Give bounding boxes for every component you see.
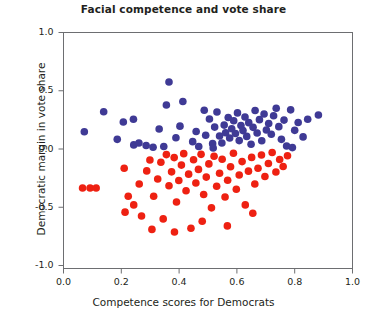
data-point xyxy=(195,143,203,151)
data-point xyxy=(216,169,224,177)
x-tick-label: 0.6 xyxy=(220,276,254,287)
data-point xyxy=(278,136,286,144)
data-point xyxy=(159,215,167,223)
data-point xyxy=(230,117,238,125)
data-point xyxy=(163,101,171,109)
data-point xyxy=(185,170,193,178)
data-point xyxy=(113,136,121,144)
axes-frame xyxy=(64,33,353,269)
data-point xyxy=(150,192,158,200)
data-point xyxy=(146,156,154,164)
data-point xyxy=(149,143,157,151)
data-point xyxy=(121,208,129,216)
data-point xyxy=(258,151,266,159)
x-tick-label: 0.4 xyxy=(162,276,196,287)
data-point xyxy=(135,180,143,188)
data-point xyxy=(233,185,241,193)
data-point xyxy=(154,175,162,183)
data-point xyxy=(182,187,190,195)
data-point xyxy=(245,167,253,175)
data-point xyxy=(211,123,219,131)
data-point xyxy=(258,137,266,145)
data-point xyxy=(279,163,287,171)
data-point xyxy=(299,133,307,141)
data-point xyxy=(243,133,251,141)
data-point xyxy=(276,156,284,164)
data-point xyxy=(284,152,292,160)
series-democratic-wins xyxy=(81,78,323,152)
data-point xyxy=(155,125,163,133)
data-point xyxy=(220,121,228,129)
data-point xyxy=(218,139,226,147)
data-point xyxy=(248,154,256,162)
data-point xyxy=(289,144,297,152)
data-point xyxy=(124,192,132,200)
data-point xyxy=(120,164,128,172)
chart-figure: Facial competence and vote share 1.00.50… xyxy=(0,0,367,321)
data-point xyxy=(79,184,87,192)
x-tick-label: 1.0 xyxy=(336,276,367,287)
data-point xyxy=(294,119,302,127)
data-point xyxy=(138,212,146,220)
data-point xyxy=(235,171,243,179)
data-point xyxy=(163,151,171,159)
data-point xyxy=(148,226,156,234)
data-point xyxy=(175,177,183,185)
data-point xyxy=(209,144,217,152)
data-point xyxy=(268,149,276,157)
data-point xyxy=(205,160,213,168)
data-point xyxy=(230,149,238,157)
data-point xyxy=(241,201,249,209)
data-point xyxy=(130,115,138,123)
data-point xyxy=(200,191,208,199)
data-point xyxy=(210,152,218,160)
data-point xyxy=(195,166,203,174)
data-point xyxy=(291,127,299,135)
data-point xyxy=(168,168,176,176)
data-point xyxy=(235,137,243,145)
data-point xyxy=(251,180,259,188)
data-point xyxy=(267,131,275,139)
data-point xyxy=(260,110,268,118)
data-point xyxy=(213,108,221,116)
data-point xyxy=(270,112,278,120)
plot-frame xyxy=(64,33,353,269)
data-point xyxy=(287,106,295,114)
data-point xyxy=(251,107,259,115)
data-point xyxy=(173,198,181,206)
data-point xyxy=(275,123,283,131)
data-point xyxy=(81,128,89,136)
x-tick-label: 0.8 xyxy=(278,276,312,287)
data-point xyxy=(187,224,195,232)
data-point xyxy=(315,111,323,119)
data-point xyxy=(160,143,168,151)
x-tick-label: 0.0 xyxy=(47,276,81,287)
y-axis-label: Democratic margin in vote share xyxy=(35,24,47,274)
data-point xyxy=(265,160,273,168)
scatter-plot-canvas xyxy=(0,0,367,321)
data-point xyxy=(192,179,200,187)
data-point xyxy=(206,115,214,123)
data-point xyxy=(208,204,216,212)
data-point xyxy=(178,161,186,169)
data-point xyxy=(265,120,273,128)
data-point xyxy=(272,104,280,112)
data-point xyxy=(172,134,180,142)
data-point xyxy=(130,201,138,209)
data-point xyxy=(213,182,221,190)
data-point xyxy=(100,108,108,116)
data-point xyxy=(176,122,184,130)
data-point xyxy=(179,98,187,106)
data-point xyxy=(180,150,188,158)
data-point xyxy=(142,142,150,150)
data-point xyxy=(171,228,179,236)
data-point xyxy=(189,138,197,146)
data-point xyxy=(304,115,312,123)
data-point xyxy=(272,168,280,176)
data-point xyxy=(238,158,246,166)
data-point xyxy=(143,167,151,175)
data-point xyxy=(253,129,261,137)
data-point xyxy=(92,184,100,192)
data-point xyxy=(254,164,262,172)
data-point xyxy=(227,163,235,171)
